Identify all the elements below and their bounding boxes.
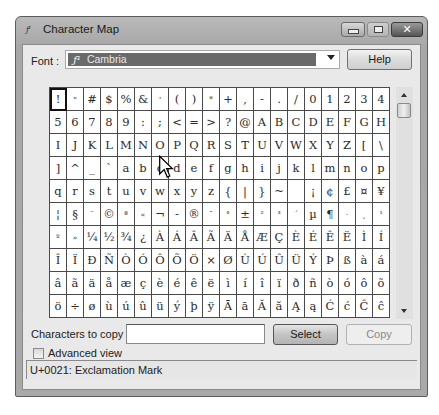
character-cell[interactable]: é [169,272,186,295]
character-cell[interactable]: ø [84,295,101,318]
character-cell[interactable]: ~ [271,180,288,203]
character-cell[interactable]: ü [152,295,169,318]
character-cell[interactable]: ° [220,203,237,226]
character-cell[interactable]: ¸ [356,203,373,226]
character-cell[interactable]: ! [50,88,67,111]
character-cell[interactable]: e [186,157,203,180]
character-cell[interactable]: Á [169,226,186,249]
character-cell[interactable]: » [67,226,84,249]
character-cell[interactable]: s [84,180,101,203]
character-cell[interactable]: ú [118,295,135,318]
character-cell[interactable]: ý [169,295,186,318]
character-cell[interactable]: 9 [118,111,135,134]
character-cell[interactable]: Æ [254,226,271,249]
character-cell[interactable]: p [373,157,390,180]
character-cell[interactable]: § [67,203,84,226]
minimize-button[interactable] [341,22,365,37]
character-cell[interactable]: ¢ [322,180,339,203]
character-cell[interactable]: n [339,157,356,180]
character-cell[interactable]: Ä [220,226,237,249]
character-cell[interactable]: Ć [322,295,339,318]
character-cell[interactable]: G [356,111,373,134]
character-cell[interactable]: ć [339,295,356,318]
character-cell[interactable]: ê [186,272,203,295]
character-cell[interactable]: Ì [356,226,373,249]
character-cell[interactable]: Ô [152,249,169,272]
character-cell[interactable]: r [67,180,84,203]
character-cell[interactable]: Ó [135,249,152,272]
character-cell[interactable]: Ù [237,249,254,272]
character-cell[interactable]: O [152,134,169,157]
character-cell[interactable]: ¨ [84,203,101,226]
character-cell[interactable]: © [101,203,118,226]
character-cell[interactable]: E [322,111,339,134]
close-button[interactable]: ✕ [391,22,423,37]
character-cell[interactable]: · [339,203,356,226]
character-cell[interactable]: Ą [288,295,305,318]
character-cell[interactable] [288,180,305,203]
character-cell[interactable]: ç [135,272,152,295]
character-cell[interactable]: õ [373,272,390,295]
character-cell[interactable]: × [203,249,220,272]
character-cell[interactable]: É [305,226,322,249]
character-cell[interactable]: ^ [67,157,84,180]
character-cell[interactable]: } [254,180,271,203]
character-cell[interactable]: ` [101,157,118,180]
character-cell[interactable]: ¾ [118,226,135,249]
character-cell[interactable]: W [288,134,305,157]
character-cell[interactable]: U [254,134,271,157]
character-cell[interactable]: * [203,88,220,111]
character-cell[interactable]: N [135,134,152,157]
character-cell[interactable]: À [152,226,169,249]
character-cell[interactable]: Z [339,134,356,157]
character-cell[interactable]: 0 [305,88,322,111]
character-cell[interactable]: j [271,157,288,180]
character-cell[interactable]: ' [152,88,169,111]
character-cell[interactable]: q [50,180,67,203]
character-cell[interactable]: x [169,180,186,203]
character-cell[interactable]: í [237,272,254,295]
character-cell[interactable]: [ [356,134,373,157]
character-cell[interactable]: B [271,111,288,134]
character-cell[interactable]: Ĉ [356,295,373,318]
character-cell[interactable]: È [288,226,305,249]
character-cell[interactable]: w [152,180,169,203]
character-cell[interactable]: µ [305,203,322,226]
maximize-button[interactable] [367,22,389,37]
character-cell[interactable]: F [339,111,356,134]
character-cell[interactable]: ) [186,88,203,111]
character-cell[interactable]: Q [186,134,203,157]
character-cell[interactable]: è [152,272,169,295]
advanced-view-label[interactable]: Advanced view [48,347,122,359]
character-cell[interactable]: ë [203,272,220,295]
character-cell[interactable]: 7 [84,111,101,134]
character-cell[interactable]: Å [237,226,254,249]
character-cell[interactable]: V [271,134,288,157]
character-cell[interactable]: + [220,88,237,111]
character-cell[interactable]: Â [186,226,203,249]
character-cell[interactable]: Ê [322,226,339,249]
character-cell[interactable]: = [186,111,203,134]
character-cell[interactable]: ð [288,272,305,295]
character-cell[interactable]: . [271,88,288,111]
chevron-down-icon[interactable] [327,55,335,60]
character-cell[interactable]: Ă [254,295,271,318]
character-cell[interactable]: ¦ [50,203,67,226]
character-cell[interactable]: à [356,249,373,272]
character-cell[interactable]: _ [84,157,101,180]
character-cell[interactable]: a [118,157,135,180]
select-button[interactable]: Select [273,324,338,345]
character-cell[interactable]: h [237,157,254,180]
character-cell[interactable]: P [169,134,186,157]
character-cell[interactable]: ® [186,203,203,226]
character-cell[interactable]: 4 [373,88,390,111]
characters-to-copy-input[interactable] [126,324,265,344]
character-cell[interactable]: ¹ [373,203,390,226]
character-cell[interactable]: 2 [339,88,356,111]
character-cell[interactable]: M [118,134,135,157]
character-cell[interactable]: 5 [50,111,67,134]
character-cell[interactable]: ÿ [203,295,220,318]
character-cell[interactable]: ´ [288,203,305,226]
character-cell[interactable]: g [220,157,237,180]
character-cell[interactable]: ô [356,272,373,295]
